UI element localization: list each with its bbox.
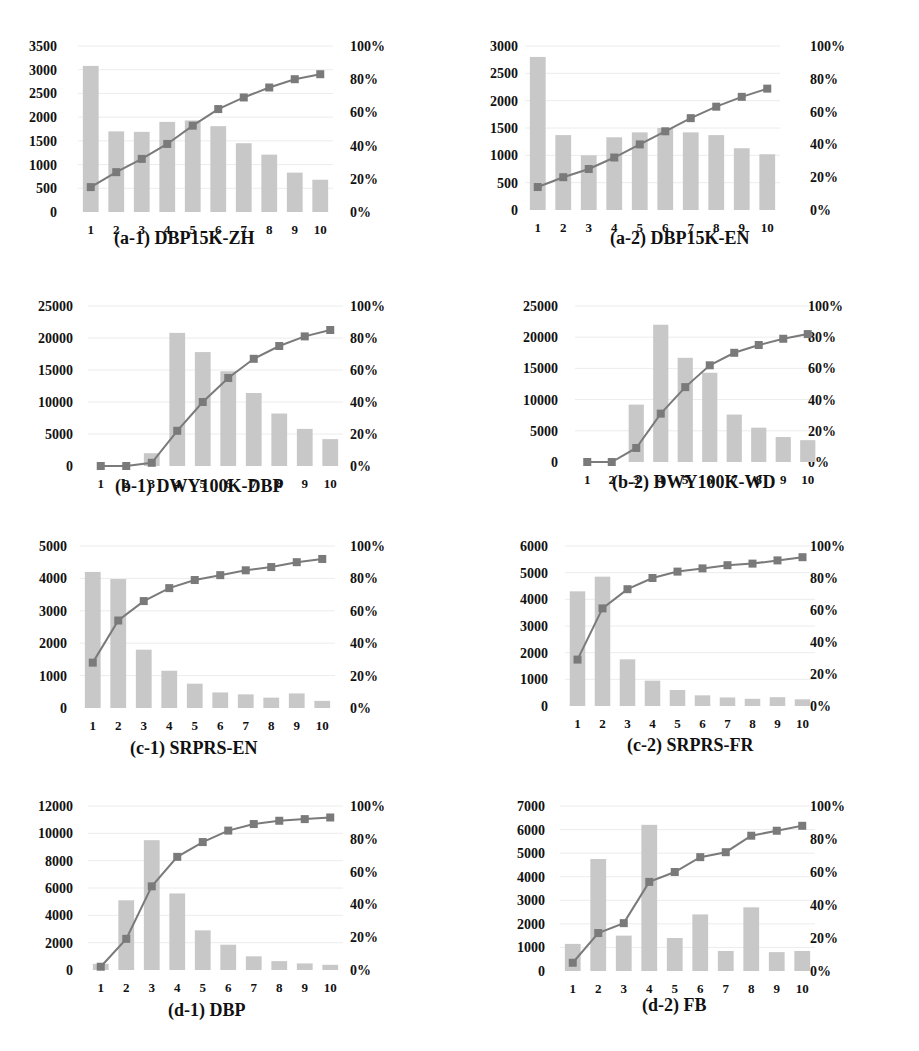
y-right-tick: 40% [808,393,836,408]
line-marker [265,84,273,92]
bar [238,694,254,708]
bar [169,333,185,466]
x-tick: 10 [796,981,809,996]
cumulative-line [91,74,321,187]
chart-b2: 2500020000150001000050000100%80%60%40%20… [460,295,900,535]
y-right-tick: 100% [350,39,385,54]
line-marker [620,919,628,927]
x-tick: 10 [316,718,329,733]
line-marker [165,584,173,592]
y-right-tick: 40% [350,395,378,410]
x-tick: 3 [621,981,628,996]
chart-b2-caption: (b-2) DWY100K-WD [612,472,776,493]
bar [745,699,761,706]
line-marker [738,93,746,101]
y-right-tick: 0% [350,701,371,716]
line-marker [636,140,644,148]
x-tick: 9 [292,222,299,237]
y-right-tick: 40% [810,137,838,152]
bar [653,325,668,462]
y-left-tick: 4000 [517,870,545,885]
bar [220,945,236,970]
line-marker [240,93,248,101]
line-marker [87,183,95,191]
x-tick: 4 [649,716,656,731]
y-left-tick: 8000 [45,854,73,869]
y-left-tick: 15000 [38,363,73,378]
cumulative-line [587,334,808,462]
x-tick: 10 [324,980,337,995]
bar [695,695,711,706]
bar [743,907,759,971]
line-marker [763,85,771,93]
x-tick: 9 [302,476,309,491]
line-marker [316,70,324,78]
y-right-tick: 60% [808,361,836,376]
line-marker [242,566,250,574]
y-right-tick: 100% [350,539,385,554]
bar [751,428,766,462]
x-tick: 5 [200,980,207,995]
bar [641,825,657,971]
y-left-tick: 2000 [45,936,73,951]
line-marker [712,103,720,111]
line-marker [674,568,682,576]
y-left-tick: 2000 [490,94,518,109]
bar [670,690,686,706]
y-right-tick: 20% [810,931,838,946]
y-left-tick: 3500 [29,39,57,54]
x-tick: 6 [217,718,224,733]
cumulative-line [101,817,331,966]
bar [606,137,622,210]
line-marker [138,155,146,163]
y-right-tick: 20% [810,170,838,185]
chart-d1-caption: (d-1) DBP [168,1000,246,1021]
y-right-tick: 100% [808,299,843,314]
y-left-tick: 4000 [520,592,548,607]
y-left-tick: 1000 [29,158,57,173]
bar [645,681,661,706]
x-tick: 8 [276,980,283,995]
bar [692,914,708,971]
bar [161,671,177,708]
line-marker [699,564,707,572]
line-marker [799,553,807,561]
x-tick: 3 [141,718,148,733]
chart-d1: 120001000080006000400020000100%80%60%40%… [0,795,440,1035]
y-left-tick: 0 [511,203,518,218]
x-tick: 1 [98,980,105,995]
line-marker [326,326,334,334]
x-tick: 5 [192,718,199,733]
bar [620,659,636,706]
bar [727,415,742,462]
y-left-tick: 0 [50,205,57,220]
y-right-tick: 100% [810,799,845,814]
line-marker [318,555,326,563]
bar [144,840,160,970]
y-left-tick: 500 [36,181,57,196]
x-tick: 7 [723,981,730,996]
bar [210,126,226,212]
y-left-tick: 1000 [517,940,545,955]
y-left-tick: 2000 [39,636,67,651]
bar [312,180,328,212]
y-left-tick: 1000 [39,669,67,684]
line-marker [89,659,97,667]
x-tick: 6 [699,716,706,731]
x-tick: 3 [624,716,631,731]
x-tick: 8 [748,981,755,996]
y-right-tick: 20% [350,930,378,945]
line-marker [114,617,122,625]
y-left-tick: 6000 [520,539,548,554]
chart-d2-svg: 70006000500040003000200010000100%80%60%4… [460,795,900,975]
bar [734,148,750,210]
chart-b1: 2500020000150001000050000100%80%60%40%20… [0,295,440,535]
y-right-tick: 80% [350,832,378,847]
y-right-tick: 20% [810,667,838,682]
y-right-tick: 20% [350,172,378,187]
line-marker [216,571,224,579]
chart-a1-caption: (a-1) DBP15K-ZH [114,228,254,249]
y-right-tick: 0% [350,963,371,978]
line-marker [583,458,591,466]
x-tick: 10 [796,716,809,731]
